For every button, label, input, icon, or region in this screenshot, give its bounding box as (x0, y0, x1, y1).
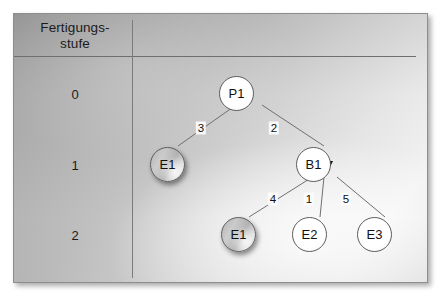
edge-label-b1-p1: 2 (269, 122, 279, 135)
diagram-screenshot: Fertigungs- stufe 0 1 2 3 (0, 0, 443, 296)
node-b1[interactable]: B1 (296, 147, 331, 182)
node-p1[interactable]: P1 (219, 76, 254, 111)
edge-label-e3-b1: 5 (341, 193, 351, 206)
node-e1-level1[interactable]: E1 (150, 147, 185, 182)
edge-label-e2-b1: 1 (304, 193, 314, 206)
node-p1-label: P1 (229, 86, 245, 101)
edge-label-e1a-p1: 3 (196, 122, 206, 135)
node-e1-level1-label: E1 (160, 157, 176, 172)
edge-line-e1a-p1 (178, 105, 236, 146)
node-e3[interactable]: E3 (357, 217, 392, 252)
edge-lines (178, 105, 385, 217)
node-e1-level2[interactable]: E1 (221, 217, 256, 252)
edge-line-e2-b1 (320, 177, 324, 217)
edge-label-e1b-b1: 4 (268, 193, 278, 206)
node-e3-label: E3 (367, 227, 383, 242)
node-e1-level2-label: E1 (231, 227, 247, 242)
node-e2-label: E2 (302, 227, 318, 242)
node-e2[interactable]: E2 (292, 217, 327, 252)
node-b1-label: B1 (306, 157, 322, 172)
diagram-panel: Fertigungs- stufe 0 1 2 3 (13, 13, 428, 283)
